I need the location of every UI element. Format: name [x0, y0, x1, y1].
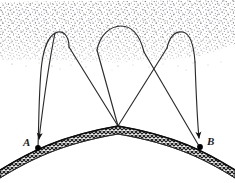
point-a-marker[interactable] [35, 145, 41, 151]
point-b-marker[interactable] [197, 144, 203, 150]
midpoint-reflection-marker [117, 125, 119, 127]
ray-centre-peak-to-b [144, 52, 199, 146]
earth-surface-group [0, 126, 235, 178]
point-b-label: B [207, 136, 214, 147]
ionosphere-layer [0, 0, 235, 70]
propagation-diagram-canvas [0, 0, 235, 183]
point-a-label: A [23, 137, 30, 148]
ray-right-peak-to-b-arrow [195, 62, 199, 138]
ionospheric-propagation-figure: A B [0, 0, 235, 183]
